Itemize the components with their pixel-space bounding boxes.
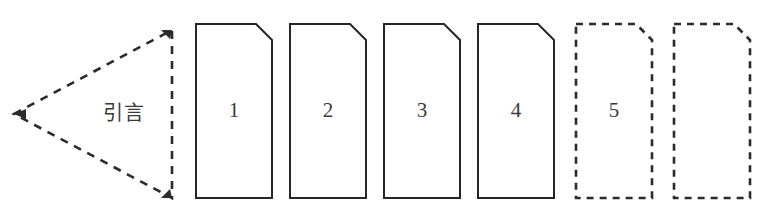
card-number-label: 4 bbox=[511, 98, 522, 122]
flow-diagram: 引言 12345 bbox=[0, 0, 769, 218]
card-3[interactable]: 3 bbox=[384, 24, 460, 198]
card-6[interactable] bbox=[674, 24, 750, 198]
card-number-label: 3 bbox=[417, 98, 428, 122]
intro-wedge-group[interactable]: 引言 bbox=[14, 30, 172, 198]
card-4[interactable]: 4 bbox=[478, 24, 554, 198]
card-5[interactable]: 5 bbox=[576, 24, 652, 198]
intro-wedge-shape[interactable] bbox=[14, 30, 172, 198]
card-shape[interactable] bbox=[674, 24, 750, 198]
card-number-label: 5 bbox=[609, 98, 620, 122]
card-number-label: 2 bbox=[323, 98, 334, 122]
diagram-canvas: 引言 12345 bbox=[0, 0, 769, 218]
card-list: 12345 bbox=[196, 24, 750, 198]
card-1[interactable]: 1 bbox=[196, 24, 272, 198]
card-number-label: 1 bbox=[229, 98, 240, 122]
card-2[interactable]: 2 bbox=[290, 24, 366, 198]
intro-wedge-label: 引言 bbox=[103, 101, 145, 125]
